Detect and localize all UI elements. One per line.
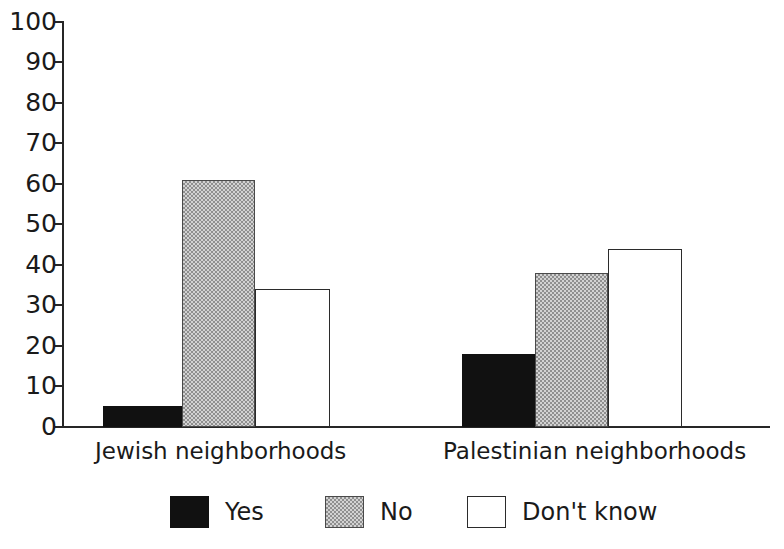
bar-jewish-no[interactable] [182,180,255,427]
category-label-palestinian: Palestinian neighborhoods [443,437,746,465]
category-label-jewish: Jewish neighborhoods [95,437,346,465]
bar-jewish-yes[interactable] [103,406,182,427]
legend-swatch-no-icon [325,496,364,528]
bar-jewish-dontknow[interactable] [255,289,330,427]
legend-item-yes[interactable]: Yes [170,492,264,532]
bars-layer [0,0,784,427]
legend-label-yes: Yes [225,498,264,526]
legend-item-dontknow[interactable]: Don't know [467,492,657,532]
bar-palestinian-no[interactable] [535,273,608,427]
legend-label-dontknow: Don't know [522,498,657,526]
plot-area: 100 90 80 70 60 50 40 30 20 10 0 [0,0,784,470]
legend-item-no[interactable]: No [325,492,413,532]
legend-swatch-dontknow-icon [467,496,506,528]
bar-chart: 100 90 80 70 60 50 40 30 20 10 0 [0,0,784,549]
legend-swatch-yes-icon [170,496,209,528]
legend-label-no: No [380,498,413,526]
chart-legend: Yes No Don't know [0,492,784,537]
bar-palestinian-dontknow[interactable] [608,249,682,427]
bar-palestinian-yes[interactable] [462,354,535,427]
